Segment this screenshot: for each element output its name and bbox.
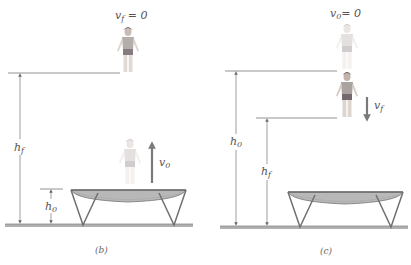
v0-arrow-label: v0 [159, 156, 170, 170]
ground-b [5, 224, 193, 227]
caption-b: (b) [95, 245, 108, 255]
trampoline-c [288, 192, 403, 227]
vf-arrow-label: vf [374, 99, 385, 113]
panel-c: h0 hf v0= 0 vf (c) [220, 7, 408, 256]
person-top-b [117, 27, 139, 72]
ground-c [220, 226, 408, 229]
person-falling-c [336, 72, 358, 117]
caption-c: (c) [320, 246, 333, 256]
top-velocity-label-b: vf = 0 [115, 9, 147, 23]
trampoline-energy-diagram: hf h0 vf = 0 v0 (b) h0 hf [0, 0, 411, 265]
person-top-faded-c [336, 24, 358, 69]
panel-b: hf h0 vf = 0 v0 (b) [5, 9, 193, 255]
person-bottom-faded-b [119, 139, 141, 184]
trampoline-b [71, 190, 186, 225]
top-velocity-label-c: v0= 0 [330, 7, 361, 21]
